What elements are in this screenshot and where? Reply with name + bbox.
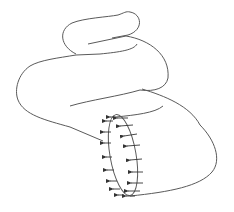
outlet-cross-section [103, 112, 143, 197]
coiled-tube-diagram [0, 0, 234, 212]
top-coil-lower [17, 44, 138, 141]
middle-coil-front [70, 90, 140, 106]
top-coil-outer [63, 12, 140, 54]
tube-outline [17, 12, 217, 198]
arrow-icon [127, 145, 140, 146]
outer-coil [130, 125, 217, 196]
arrow-icon [124, 134, 137, 136]
middle-coil-under [116, 106, 163, 117]
middle-coil-upper-back [142, 89, 200, 125]
top-coil-inner [88, 36, 168, 91]
arrow-icon [130, 159, 142, 160]
arrow-icon [120, 125, 133, 126]
